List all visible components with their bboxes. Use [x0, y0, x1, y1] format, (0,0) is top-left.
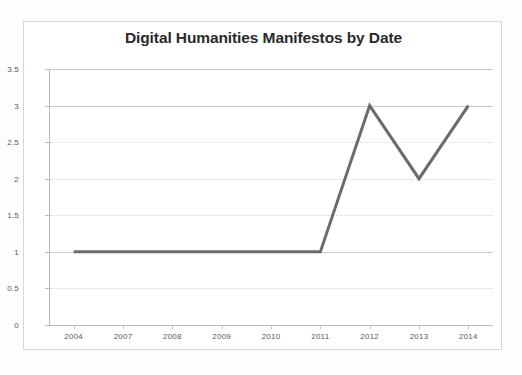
x-axis-tick-mark: [419, 325, 420, 329]
x-axis-tick-label: 2008: [149, 332, 195, 341]
x-axis-tick-mark: [320, 325, 321, 329]
chart-title: Digital Humanities Manifestos by Date: [24, 29, 503, 47]
y-axis-tick-mark: [45, 325, 49, 326]
x-axis-tick-mark: [468, 325, 469, 329]
y-axis-tick-mark: [45, 179, 49, 180]
x-axis-tick-mark: [370, 325, 371, 329]
y-axis-tick-mark: [45, 106, 49, 107]
chart-frame: Digital Humanities Manifestos by Date 3.…: [23, 21, 502, 350]
x-axis-tick-label: 2010: [248, 332, 294, 341]
chart-screenshot: Digital Humanities Manifestos by Date 3.…: [0, 0, 522, 375]
y-axis-tick-label: 1.5: [0, 211, 19, 220]
x-axis-tick-mark: [172, 325, 173, 329]
y-axis-tick-mark: [45, 288, 49, 289]
x-axis-tick-label: 2011: [297, 332, 343, 341]
data-series-line: [49, 69, 493, 326]
y-axis-tick-label: 2: [0, 175, 19, 184]
x-axis-tick-label: 2004: [51, 332, 97, 341]
y-axis-tick-label: 0: [0, 321, 19, 330]
y-axis-tick-mark: [45, 215, 49, 216]
y-axis-tick-label: 3.5: [0, 65, 19, 74]
y-axis-tick-label: 0.5: [0, 284, 19, 293]
x-axis-tick-mark: [222, 325, 223, 329]
x-axis-tick-label: 2014: [445, 332, 491, 341]
y-axis-tick-mark: [45, 142, 49, 143]
y-axis-tick-label: 1: [0, 248, 19, 257]
x-axis-tick-label: 2009: [199, 332, 245, 341]
x-axis-tick-mark: [123, 325, 124, 329]
x-axis-tick-mark: [271, 325, 272, 329]
x-axis-tick-label: 2012: [347, 332, 393, 341]
y-axis-tick-label: 2.5: [0, 138, 19, 147]
x-axis-tick-label: 2013: [396, 332, 442, 341]
y-axis-tick-mark: [45, 252, 49, 253]
y-axis-tick-label: 3: [0, 102, 19, 111]
x-axis-tick-label: 2007: [100, 332, 146, 341]
x-axis-tick-mark: [74, 325, 75, 329]
y-axis-tick-mark: [45, 69, 49, 70]
